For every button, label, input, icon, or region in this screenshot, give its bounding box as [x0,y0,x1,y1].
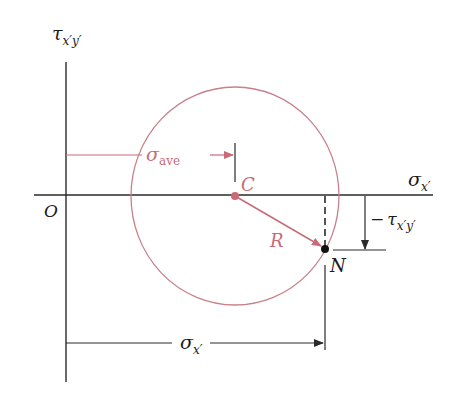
center-point-C [231,192,239,200]
neg-tau-label: −τx′y′ [370,209,416,233]
sigma-axis-label: σx′ [408,168,431,194]
point-N [321,245,329,253]
sigma-x-dimension-label: σx′ [180,331,203,357]
mohr-circle-diagram: τx′y′ σx′ O σave C R N −τx′y′ σx′ [0,0,455,408]
point-N-label: N [329,255,347,276]
origin-label: O [44,201,58,221]
radius-label: R [269,230,284,251]
sigma-ave-label: σave [146,143,180,168]
center-label: C [241,174,255,195]
tau-axis-label: τx′y′ [52,22,82,48]
